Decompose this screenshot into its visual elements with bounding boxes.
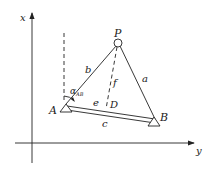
mechanism-diagram: x y P A B D b a f e c αAB	[0, 0, 209, 173]
y-axis-label: y	[195, 145, 202, 156]
segment-a-label: a	[142, 73, 148, 84]
segment-e-label: e	[93, 97, 99, 108]
support-a-icon	[60, 104, 72, 112]
point-b-label: B	[159, 111, 168, 124]
x-axis-label: x	[20, 12, 26, 23]
pulley-p-icon	[114, 39, 122, 47]
bar-ab-bottom	[67, 110, 155, 123]
segment-c-label: c	[102, 118, 108, 129]
segment-b-label: b	[85, 64, 91, 75]
cable-a	[120, 46, 155, 119]
point-d-label: D	[109, 99, 118, 110]
angle-label: αAB	[70, 86, 84, 97]
point-a-label: A	[48, 104, 57, 117]
segment-f-label: f	[112, 77, 119, 88]
point-p-label: P	[113, 27, 122, 40]
